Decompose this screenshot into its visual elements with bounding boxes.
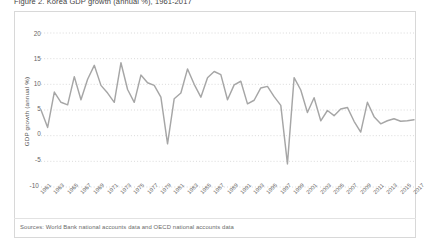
gridlines [41, 33, 414, 187]
gdp-growth-line [41, 63, 414, 164]
chart-plot-area [15, 12, 417, 239]
chart-card: GDP growth (annual %) 20 15 10 5 0 -5 -1… [14, 11, 416, 238]
figure-container: Figure 2. Korea GDP growth (annual %), 1… [0, 0, 431, 252]
source-note: Sources: World Bank national accounts da… [20, 224, 234, 230]
figure-title: Figure 2. Korea GDP growth (annual %), 1… [14, 0, 192, 6]
source-divider [14, 218, 416, 219]
